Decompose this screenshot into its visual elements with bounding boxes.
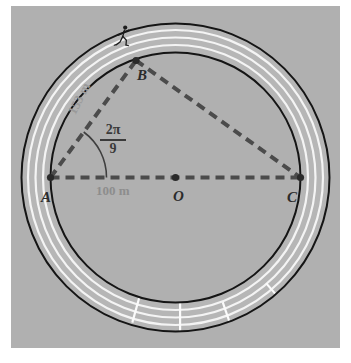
vertex-dot-c — [297, 174, 304, 181]
angle-numerator: 2π — [96, 123, 130, 139]
track-diagram-svg — [0, 0, 351, 363]
point-label-a: A — [41, 190, 51, 205]
point-label-b: B — [137, 68, 147, 83]
point-label-o: O — [173, 189, 184, 204]
point-label-c: C — [287, 190, 297, 205]
angle-measure-label: 2π 9 — [96, 123, 130, 156]
vertex-dot-o — [172, 174, 179, 181]
runner-icon — [113, 24, 135, 48]
diameter-ac-length-label: 100 m — [96, 184, 130, 197]
vertex-dot-b — [132, 57, 139, 64]
vertex-dot-a — [47, 174, 54, 181]
figure-root: 153 m 100 m 2π 9 A B C O — [0, 0, 351, 363]
angle-denominator: 9 — [96, 141, 130, 157]
